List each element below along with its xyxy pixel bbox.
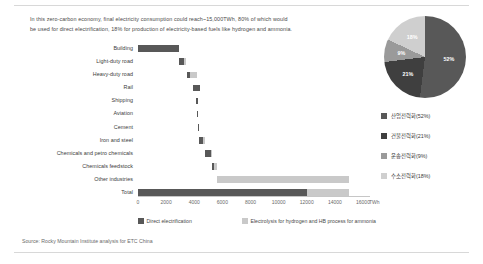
chart-row-track xyxy=(138,160,370,173)
chart-row-track xyxy=(138,173,370,186)
chart-row-label: Other industries xyxy=(14,173,133,186)
chart-row: Aviation xyxy=(14,107,370,120)
top-divider xyxy=(14,5,469,6)
pie-legend-label: 수소전력화(18%) xyxy=(391,172,430,180)
x-axis-ticks: 0200040006000800010000120001400016000TWh xyxy=(138,199,383,209)
intro-line-1: In this zero-carbon economy, final elect… xyxy=(30,14,340,24)
bar-segment-direct xyxy=(193,85,200,92)
chart-row-track xyxy=(138,134,370,147)
legend-item-direct: Direct electrification xyxy=(138,218,192,224)
chart-row: Shipping xyxy=(14,94,370,107)
intro-line-2: be used for direct electrification, 18% … xyxy=(30,24,340,34)
chart-row-label: Chemicals and petro chemicals xyxy=(14,147,133,160)
pie-legend-swatch xyxy=(381,173,387,179)
pie-legend-label: 건물전력화(21%) xyxy=(391,132,430,140)
pie-slice-percent: 18% xyxy=(407,34,418,40)
chart-row-label: Building xyxy=(14,42,133,55)
chart-row-track xyxy=(138,186,370,199)
bar-segment-direct xyxy=(196,98,198,105)
legend-label-electrolysis: Electrolysis for hydrogen and HB process… xyxy=(251,218,376,224)
chart-row-label: Chemicals feedstock xyxy=(14,160,133,173)
bar-segment-direct xyxy=(197,111,198,118)
chart-row-track xyxy=(138,55,370,68)
chart-row-label: Light-duty road xyxy=(14,55,133,68)
chart-row: Light-duty road xyxy=(14,55,370,68)
chart-row: Rail xyxy=(14,81,370,94)
pie-legend-swatch xyxy=(381,113,387,119)
x-tick-label: 6000 xyxy=(217,199,228,205)
x-tick-label: 14000 xyxy=(328,199,342,205)
legend-label-direct: Direct electrification xyxy=(147,218,192,224)
chart-row-label: Shipping xyxy=(14,94,133,107)
chart-rows: BuildingLight-duty roadHeavy-duty roadRa… xyxy=(14,42,370,199)
x-tick-label: 12000 xyxy=(300,199,314,205)
pie-chart: 52%21%9%18% xyxy=(376,14,476,100)
pie-legend-swatch xyxy=(381,133,387,139)
x-tick-label: 8000 xyxy=(245,199,256,205)
bar-segment-electrolysis xyxy=(203,137,205,144)
chart-row: Heavy-duty road xyxy=(14,68,370,81)
pie-legend-item: 운송전력화(9%) xyxy=(381,146,481,166)
chart-row-label: Rail xyxy=(14,81,133,94)
chart-row-label: Iron and steel xyxy=(14,134,133,147)
chart-row: Building xyxy=(14,42,370,55)
chart-row: Other industries xyxy=(14,173,370,186)
pie-slice-percent: 52% xyxy=(444,56,455,62)
pie-legend-item: 산업전력화(52%) xyxy=(381,106,481,126)
pie-legend-item: 수소전력화(18%) xyxy=(381,166,481,186)
bottom-divider xyxy=(14,252,469,253)
chart-row-label: Cement xyxy=(14,121,133,134)
x-tick-label: 2000 xyxy=(161,199,172,205)
source-note: Source: Rocky Mountain Institute analysi… xyxy=(22,238,153,244)
chart-row-track xyxy=(138,121,370,134)
legend-swatch-direct xyxy=(138,218,144,224)
pie-legend-label: 산업전력화(52%) xyxy=(391,112,430,120)
chart-row-track xyxy=(138,107,370,120)
bar-segment-direct xyxy=(198,124,199,131)
waterfall-chart: BuildingLight-duty roadHeavy-duty roadRa… xyxy=(14,42,370,212)
chart-row-label: Heavy-duty road xyxy=(14,68,133,81)
chart-row-track xyxy=(138,94,370,107)
bar-segment-electrolysis xyxy=(217,176,349,183)
chart-row-track xyxy=(138,68,370,81)
bar-segment-electrolysis xyxy=(190,72,197,79)
pie-legend-label: 운송전력화(9%) xyxy=(391,152,427,160)
bar-segment-electrolysis xyxy=(214,163,216,170)
bar-segment-electrolysis xyxy=(211,150,212,157)
chart-row: Chemicals feedstock xyxy=(14,160,370,173)
chart-row: Total xyxy=(14,186,370,199)
intro-paragraph: In this zero-carbon economy, final elect… xyxy=(30,14,340,34)
pie-legend: 산업전력화(52%)건물전력화(21%)운송전력화(9%)수소전력화(18%) xyxy=(381,106,481,186)
legend-item-electrolysis: Electrolysis for hydrogen and HB process… xyxy=(242,218,376,224)
pie-legend-swatch xyxy=(381,153,387,159)
chart-row-track xyxy=(138,42,370,55)
pie-legend-item: 건물전력화(21%) xyxy=(381,126,481,146)
bar-segment-electrolysis xyxy=(184,58,187,65)
bar-segment-direct xyxy=(138,45,179,52)
x-tick-label: 16000 xyxy=(356,199,370,205)
x-axis-line xyxy=(138,196,370,197)
infographic-page: In this zero-carbon economy, final elect… xyxy=(0,0,483,264)
pie-slice-percent: 9% xyxy=(397,50,405,56)
x-tick-label: 4000 xyxy=(189,199,200,205)
x-tick-label: 0 xyxy=(137,199,140,205)
x-axis-unit-label: TWh xyxy=(369,199,380,205)
chart-row-label: Aviation xyxy=(14,107,133,120)
pie-slice-percent: 21% xyxy=(403,71,414,77)
chart-row: Iron and steel xyxy=(14,134,370,147)
chart-row-track xyxy=(138,81,370,94)
x-tick-label: 10000 xyxy=(272,199,286,205)
chart-row: Cement xyxy=(14,121,370,134)
chart-row-label: Total xyxy=(14,186,133,199)
legend-swatch-electrolysis xyxy=(242,218,248,224)
chart-row-track xyxy=(138,147,370,160)
chart-row: Chemicals and petro chemicals xyxy=(14,147,370,160)
